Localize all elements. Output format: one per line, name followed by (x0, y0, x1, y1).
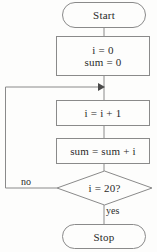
edge-no-feedback-loop (6, 87, 99, 188)
flowchart-vector-layer (0, 0, 157, 252)
flowchart-canvas: Start i = 0 sum = 0 i = i + 1 sum = sum … (0, 0, 157, 252)
accum-process-shape (57, 139, 150, 164)
decision-diamond-shape (57, 171, 152, 205)
edge-label-no: no (21, 177, 31, 187)
edge-label-yes: yes (106, 206, 119, 216)
start-terminator-shape (63, 3, 146, 28)
stop-terminator-shape (63, 225, 146, 249)
init-process-shape (57, 37, 150, 76)
incr-process-shape (57, 101, 150, 126)
